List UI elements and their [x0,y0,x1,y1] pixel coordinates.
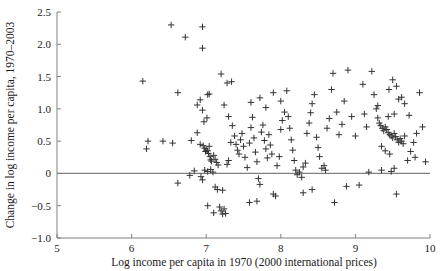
data-point-marker [234,147,240,153]
data-point-marker [278,126,284,132]
data-point-marker [300,190,306,196]
data-point-marker [240,143,246,149]
data-point-marker [291,157,297,163]
data-point-marker [246,140,252,146]
data-point-marker [252,149,258,155]
data-point-marker [219,211,225,217]
data-point-marker [326,115,332,121]
data-point-marker [336,131,342,137]
data-point-marker [311,91,317,97]
data-point-marker [385,113,391,119]
x-axis-title-text: Log income per capita in 1970 (2000 inte… [111,256,377,269]
x-axis-ticks: 5678910 [54,234,436,254]
data-point-marker [254,159,260,165]
data-point-marker [188,137,194,143]
data-point-marker [225,157,231,163]
data-point-marker [199,24,205,30]
data-point-marker [407,148,413,154]
data-point-marker [218,71,224,77]
data-point-marker [378,167,384,173]
data-point-marker [393,83,399,89]
data-point-marker [140,78,146,84]
data-point-marker [387,151,393,157]
data-point-marker [204,203,210,209]
y-axis-title-text: Change in log income per capita, 1970–20… [4,21,17,228]
data-point-marker [393,191,399,197]
data-point-marker [231,133,237,139]
data-point-marker [251,135,257,141]
data-point-marker [201,119,207,125]
data-point-marker [175,90,181,96]
x-tick-label: 6 [129,242,135,254]
data-point-marker [267,142,273,148]
y-tick-label: 0 [46,167,52,179]
data-point-marker [313,134,319,140]
x-tick-label: 10 [425,242,437,254]
data-point-marker [278,98,284,104]
data-point-marker [341,98,347,104]
data-point-marker [371,91,377,97]
data-point-marker [239,130,245,136]
data-point-marker [221,102,227,108]
data-point-marker [175,180,181,186]
data-point-marker [419,124,425,130]
data-point-marker [202,167,208,173]
data-point-marker [160,138,166,144]
data-point-marker [263,104,269,110]
data-point-marker [315,144,321,150]
data-point-marker [339,121,345,127]
x-tick-label: 5 [54,242,60,254]
data-point-marker [198,173,204,179]
data-point-marker [390,77,396,83]
data-point-marker [284,88,290,94]
data-point-marker [290,147,296,153]
data-point-marker [242,154,248,160]
data-point-marker [334,109,340,115]
data-point-marker [285,113,291,119]
data-point-marker [254,198,260,204]
data-point-marker [194,102,200,108]
data-points-layer [140,22,429,218]
y-tick-label: 0.5 [37,135,51,147]
data-point-marker [145,138,151,144]
data-point-marker [261,137,267,143]
data-point-marker [287,125,293,131]
data-point-marker [316,153,322,159]
data-point-marker [307,110,313,116]
data-point-marker [281,109,287,115]
data-point-marker [422,159,428,165]
data-point-marker [328,86,334,92]
data-point-marker [143,146,149,152]
data-point-marker [182,34,188,40]
data-point-marker [331,199,337,205]
data-point-marker [306,120,312,126]
y-tick-label: 2.0 [37,38,51,50]
data-point-marker [366,169,372,175]
data-point-marker [199,107,205,113]
data-point-marker [382,148,388,154]
data-point-marker [258,129,264,135]
data-point-marker [356,182,362,188]
data-point-marker [304,130,310,136]
data-point-marker [197,97,203,103]
y-tick-label: −1.0 [31,232,51,244]
data-point-marker [404,157,410,163]
data-point-marker [416,90,422,96]
data-point-marker [168,22,174,28]
data-point-marker [248,99,254,105]
data-point-marker [401,100,407,106]
scatter-plot-figure: Change in log income per capita, 1970–20… [0,0,441,271]
data-point-marker [199,45,205,51]
data-point-marker [244,164,250,170]
data-point-marker [378,143,384,149]
y-axis-title: Change in log income per capita, 1970–20… [4,21,17,228]
x-axis-title: Log income per capita in 1970 (2000 inte… [111,256,377,269]
data-point-marker [288,137,294,143]
data-point-marker [257,181,263,187]
data-point-marker [225,113,231,119]
data-point-marker [219,187,225,193]
data-point-marker [391,165,397,171]
data-point-marker [270,90,276,96]
data-point-marker [363,124,369,130]
data-point-marker [369,68,375,74]
